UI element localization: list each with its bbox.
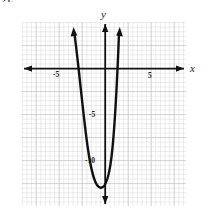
x-axis-label: x — [189, 62, 195, 74]
x-axis-arrow-left — [24, 65, 32, 71]
grid-lines — [22, 22, 186, 206]
y-axis-arrow-up — [102, 24, 108, 32]
coordinate-plane: x y -5 5 -5 -10 — [0, 0, 208, 222]
y-axis-label: y — [100, 8, 106, 20]
x-axis-arrow-right — [176, 65, 184, 71]
x-tick-label-pos5: 5 — [148, 71, 152, 80]
x-tick-label-neg5: -5 — [53, 70, 59, 79]
graph-figure: 21. — [0, 0, 208, 222]
parabola-curve — [71, 27, 123, 188]
y-axis-arrow-down — [102, 196, 108, 204]
axis-lines — [24, 24, 184, 204]
y-tick-label-neg5: -5 — [89, 110, 95, 119]
